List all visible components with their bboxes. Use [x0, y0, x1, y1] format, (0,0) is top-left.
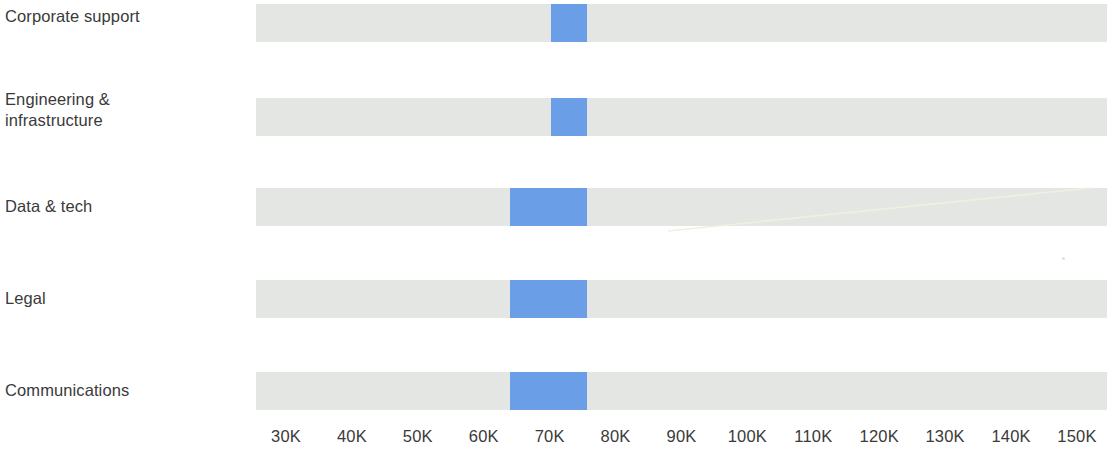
bar-track-data-tech[interactable]	[256, 188, 1106, 226]
bar-track-corporate-support[interactable]	[256, 4, 1106, 42]
bar-highlight-corporate-support[interactable]	[551, 4, 587, 42]
x-axis-tick-40k: 40K	[337, 424, 367, 448]
bar-track-legal[interactable]	[256, 280, 1106, 318]
x-axis-tick-60k: 60K	[469, 424, 499, 448]
row-label-legal: Legal	[5, 288, 255, 309]
bar-track-engineering-infrastructure[interactable]	[256, 98, 1106, 136]
x-axis-tick-140k: 140K	[991, 424, 1030, 448]
bar-track-communications[interactable]	[256, 372, 1106, 410]
x-axis-tick-90k: 90K	[667, 424, 697, 448]
bar-highlight-legal[interactable]	[510, 280, 586, 318]
x-axis-tick-70k: 70K	[535, 424, 565, 448]
x-axis-tick-30k: 30K	[271, 424, 301, 448]
bar-highlight-communications[interactable]	[510, 372, 586, 410]
x-axis-tick-100k: 100K	[728, 424, 767, 448]
row-label-corporate-support: Corporate support	[5, 6, 255, 27]
x-axis-tick-80k: 80K	[601, 424, 631, 448]
row-label-communications: Communications	[5, 380, 255, 401]
x-axis-tick-110k: 110K	[794, 424, 832, 448]
row-label-engineering-infrastructure: Engineering & infrastructure	[5, 89, 255, 131]
bar-highlight-data-tech[interactable]	[510, 188, 586, 226]
bar-highlight-engineering-infrastructure[interactable]	[551, 98, 587, 136]
scan-artifact-speck	[1062, 257, 1065, 260]
x-axis-tick-50k: 50K	[403, 424, 433, 448]
x-axis: 30K40K50K60K70K80K90K100K110K120K130K140…	[0, 424, 1099, 448]
x-axis-tick-150k: 150K	[1057, 424, 1096, 448]
x-axis-tick-130k: 130K	[925, 424, 964, 448]
x-axis-tick-120k: 120K	[860, 424, 899, 448]
row-label-data-tech: Data & tech	[5, 196, 255, 217]
